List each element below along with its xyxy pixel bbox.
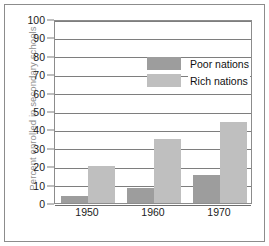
plot-area: Poor nations Rich nations [54,20,252,204]
y-tick-label: 60 [33,88,45,100]
bar-1970-rich-nations [220,122,247,203]
bar-group-1950 [61,166,115,203]
legend-label-rich-nations: Rich nations [188,75,250,87]
y-tick-mark [47,185,54,186]
bar-group-1960 [127,139,181,203]
y-tick-mark [47,167,54,168]
chart-legend: Poor nations Rich nations [147,57,251,87]
y-axis-tick-container: 0102030405060708090100 [0,20,54,204]
x-tick-label-1960: 1960 [141,206,164,218]
y-tick-label: 80 [33,51,45,63]
bar-group-1970 [193,122,247,203]
x-axis-labels: 195019601970 [54,206,252,224]
y-tick-label: 0 [39,198,45,210]
y-tick-mark [47,130,54,131]
y-tick-label: 40 [33,124,45,136]
y-tick-mark [47,93,54,94]
legend-swatch-poor-nations [147,57,181,70]
legend-swatch-rich-nations [147,74,181,87]
y-tick-mark [47,112,54,113]
y-tick-label: 70 [33,69,45,81]
y-tick-mark [47,204,54,205]
y-tick-mark [47,20,54,21]
bar-1960-rich-nations [154,139,181,203]
legend-item-poor-nations: Poor nations [147,57,251,70]
bar-chart-figure: Percent enrolled in secondary schools 01… [0,0,269,246]
bar-1950-rich-nations [88,166,115,203]
y-tick-label: 10 [33,180,45,192]
y-tick-mark [47,56,54,57]
y-tick-mark [47,38,54,39]
legend-item-rich-nations: Rich nations [147,74,251,87]
bar-1970-poor-nations [193,175,220,203]
x-tick-label-1950: 1950 [75,206,98,218]
bar-1960-poor-nations [127,188,154,203]
y-tick-mark [47,148,54,149]
bar-1950-poor-nations [61,196,88,203]
bar-series-container [55,21,251,203]
y-tick-label: 20 [33,161,45,173]
y-tick-label: 50 [33,106,45,118]
x-tick-label-1970: 1970 [207,206,230,218]
y-tick-label: 30 [33,143,45,155]
y-tick-label: 100 [27,14,45,26]
y-tick-label: 90 [33,32,45,44]
y-tick-mark [47,75,54,76]
legend-label-poor-nations: Poor nations [188,58,251,70]
